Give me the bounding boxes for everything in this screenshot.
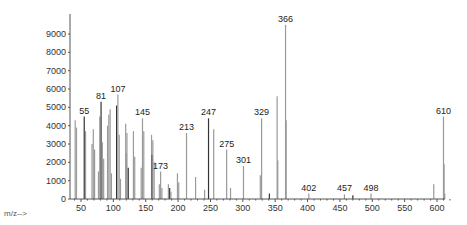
y-tick-label: 4000 xyxy=(46,121,66,131)
peak-label: 610 xyxy=(436,106,451,116)
peak-label: 498 xyxy=(363,183,378,193)
x-axis: 50100150200250300350400450500550600 xyxy=(70,199,450,213)
peak-label: 457 xyxy=(337,183,352,193)
peak-label: 107 xyxy=(110,84,125,94)
y-tick-label: 8000 xyxy=(46,47,66,57)
y-axis: 0100020003000400050006000700080009000 xyxy=(46,14,70,204)
peak-label: 173 xyxy=(153,161,168,171)
x-tick-label: 300 xyxy=(235,203,250,213)
x-tick-label: 200 xyxy=(171,203,186,213)
peak-label: 402 xyxy=(301,183,316,193)
x-tick-label: 350 xyxy=(268,203,283,213)
peak-label: 145 xyxy=(135,107,150,117)
x-tick-label: 50 xyxy=(76,203,86,213)
x-tick-label: 250 xyxy=(203,203,218,213)
peak-label: 81 xyxy=(96,91,106,101)
peak-label: 55 xyxy=(79,106,89,116)
y-tick-label: 0 xyxy=(61,194,66,204)
y-tick-label: 2000 xyxy=(46,157,66,167)
x-tick-label: 600 xyxy=(429,203,444,213)
x-tick-label: 100 xyxy=(106,203,121,213)
peak-label: 247 xyxy=(201,107,216,117)
y-tick-label: 5000 xyxy=(46,102,66,112)
peak-label: 366 xyxy=(278,14,293,24)
y-tick-label: 7000 xyxy=(46,66,66,76)
mass-spectrum-chart: 0100020003000400050006000700080009000 50… xyxy=(0,0,467,225)
y-tick-label: 3000 xyxy=(46,139,66,149)
x-tick-label: 400 xyxy=(300,203,315,213)
y-tick-label: 6000 xyxy=(46,84,66,94)
peak-label: 301 xyxy=(236,155,251,165)
x-axis-label: m/z--> xyxy=(4,209,27,218)
x-tick-label: 500 xyxy=(365,203,380,213)
x-tick-label: 550 xyxy=(397,203,412,213)
x-tick-label: 450 xyxy=(332,203,347,213)
y-tick-label: 9000 xyxy=(46,29,66,39)
peak-label: 329 xyxy=(254,107,269,117)
x-tick-label: 150 xyxy=(138,203,153,213)
y-tick-label: 1000 xyxy=(46,176,66,186)
peak-label: 275 xyxy=(219,139,234,149)
peak-label: 213 xyxy=(179,122,194,132)
